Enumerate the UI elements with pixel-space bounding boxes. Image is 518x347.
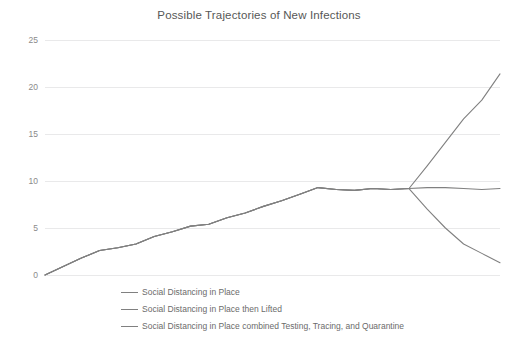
plot-area <box>45 40 500 275</box>
legend-line-icon <box>121 292 138 293</box>
legend-item-social-distancing-in-place[interactable]: Social Distancing in Place <box>121 285 511 300</box>
legend-item-label: Social Distancing in Place then Lifted <box>142 305 282 314</box>
gridline <box>45 275 500 276</box>
legend-item-label: Social Distancing in Place combined Test… <box>142 322 404 331</box>
y-axis-tick-label: 0 <box>10 271 38 280</box>
chart-title: Possible Trajectories of New Infections <box>0 9 518 21</box>
legend-item-social-distancing-with-testing-tracing-quarantine[interactable]: Social Distancing in Place combined Test… <box>121 319 511 334</box>
y-axis-tick-label: 15 <box>10 130 38 139</box>
y-axis-tick-label: 5 <box>10 224 38 233</box>
series-line <box>45 74 500 275</box>
series-line <box>45 188 500 275</box>
legend-line-icon <box>121 309 138 310</box>
series-lines <box>45 40 500 275</box>
series-line <box>45 188 500 275</box>
chart-legend: Social Distancing in Place Social Distan… <box>121 285 511 336</box>
legend-line-icon <box>121 326 138 327</box>
y-axis: 0510152025 <box>8 40 38 275</box>
chart-container: Possible Trajectories of New Infections … <box>0 0 518 347</box>
legend-item-social-distancing-then-lifted[interactable]: Social Distancing in Place then Lifted <box>121 302 511 317</box>
y-axis-tick-label: 20 <box>10 83 38 92</box>
y-axis-tick-label: 25 <box>10 36 38 45</box>
y-axis-tick-label: 10 <box>10 177 38 186</box>
legend-item-label: Social Distancing in Place <box>142 288 240 297</box>
